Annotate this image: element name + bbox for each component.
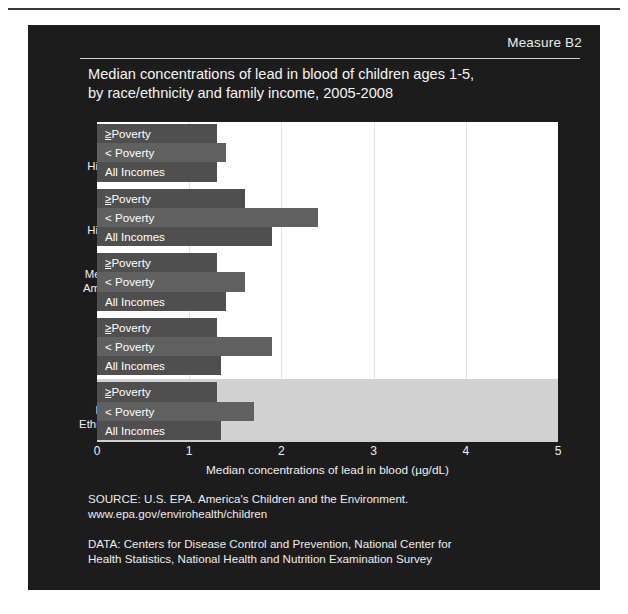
bar-row[interactable]: < Poverty <box>97 402 558 421</box>
source-note-line-2: www.epa.gov/envirohealth/children <box>88 507 558 522</box>
bar-row[interactable]: < Poverty <box>97 272 558 291</box>
bar[interactable] <box>97 208 318 227</box>
bar-row[interactable]: All Incomes <box>97 227 558 246</box>
bar-row[interactable]: < Poverty <box>97 143 558 162</box>
page-title: Median concentrations of lead in blood o… <box>88 65 583 103</box>
bar-row[interactable]: ≥ Poverty <box>97 124 558 143</box>
x-tick-label: 4 <box>462 444 469 458</box>
bar-group: ≥ Poverty< PovertyAll Incomes <box>97 124 558 182</box>
x-axis-baseline <box>97 440 558 442</box>
bar[interactable] <box>97 337 272 356</box>
x-axis-title: Median concentrations of lead in blood (… <box>97 463 558 477</box>
bar[interactable] <box>97 162 217 181</box>
data-note-line-1: DATA: Centers for Disease Control and Pr… <box>88 537 558 552</box>
bar[interactable] <box>97 382 217 401</box>
x-tick-label: 2 <box>278 444 285 458</box>
bar[interactable] <box>97 402 254 421</box>
source-note-line-1: SOURCE: U.S. EPA. America's Children and… <box>88 492 558 507</box>
bar-row[interactable]: ≥ Poverty <box>97 253 558 272</box>
chart-title-line-2: by race/ethnicity and family income, 200… <box>88 84 583 103</box>
x-tick-label: 5 <box>555 444 562 458</box>
bar[interactable] <box>97 421 221 440</box>
bar[interactable] <box>97 253 217 272</box>
chart-plot-area: Whitenon-HispanicBlacknon-HispanicMexica… <box>69 115 574 440</box>
bar-group: ≥ Poverty< PovertyAll Incomes <box>97 253 558 311</box>
bar-row[interactable]: All Incomes <box>97 421 558 440</box>
slide-page: Measure B2 Median concentrations of lead… <box>0 0 628 614</box>
chart-slide-panel: Measure B2 Median concentrations of lead… <box>28 25 600 590</box>
x-tick-label: 0 <box>94 444 101 458</box>
source-note: SOURCE: U.S. EPA. America's Children and… <box>88 492 558 521</box>
bar-group: ≥ Poverty< PovertyAll Incomes <box>97 318 558 376</box>
bar-row[interactable]: ≥ Poverty <box>97 318 558 337</box>
bar[interactable] <box>97 318 217 337</box>
bar[interactable] <box>97 227 272 246</box>
bar-row[interactable]: ≥ Poverty <box>97 382 558 401</box>
bar-row[interactable]: < Poverty <box>97 337 558 356</box>
chart-title-line-1: Median concentrations of lead in blood o… <box>88 65 583 84</box>
bar[interactable] <box>97 356 221 375</box>
bar-row[interactable]: All Incomes <box>97 162 558 181</box>
bar[interactable] <box>97 143 226 162</box>
x-tick-label: 1 <box>186 444 193 458</box>
bar[interactable] <box>97 292 226 311</box>
bar-group: ≥ Poverty< PovertyAll Incomes <box>97 189 558 247</box>
chart-canvas: ≥ Poverty< PovertyAll Incomes≥ Poverty< … <box>97 122 558 440</box>
bar-row[interactable]: ≥ Poverty <box>97 189 558 208</box>
bar[interactable] <box>97 189 245 208</box>
bar[interactable] <box>97 272 245 291</box>
bar[interactable] <box>97 124 217 143</box>
bar-row[interactable]: All Incomes <box>97 356 558 375</box>
page-top-rule <box>8 8 620 10</box>
data-note: DATA: Centers for Disease Control and Pr… <box>88 537 558 566</box>
bar-group: ≥ Poverty< PovertyAll Incomes <box>97 382 558 440</box>
data-note-line-2: Health Statistics, National Health and N… <box>88 552 558 567</box>
bar-row[interactable]: All Incomes <box>97 292 558 311</box>
bar-row[interactable]: < Poverty <box>97 208 558 227</box>
x-tick-label: 3 <box>370 444 377 458</box>
header-divider <box>80 58 580 59</box>
x-axis-ticks: 012345 <box>97 444 558 460</box>
measure-label: Measure B2 <box>507 35 582 50</box>
